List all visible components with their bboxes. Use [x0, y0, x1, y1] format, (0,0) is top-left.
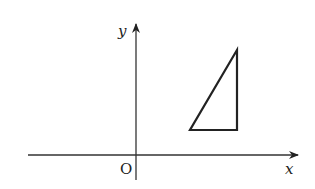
coordinate-diagram: x y O [0, 0, 315, 189]
triangle [190, 50, 237, 130]
origin-label: O [120, 160, 132, 178]
y-axis-label: y [117, 22, 127, 40]
x-axis-label: x [285, 160, 294, 178]
